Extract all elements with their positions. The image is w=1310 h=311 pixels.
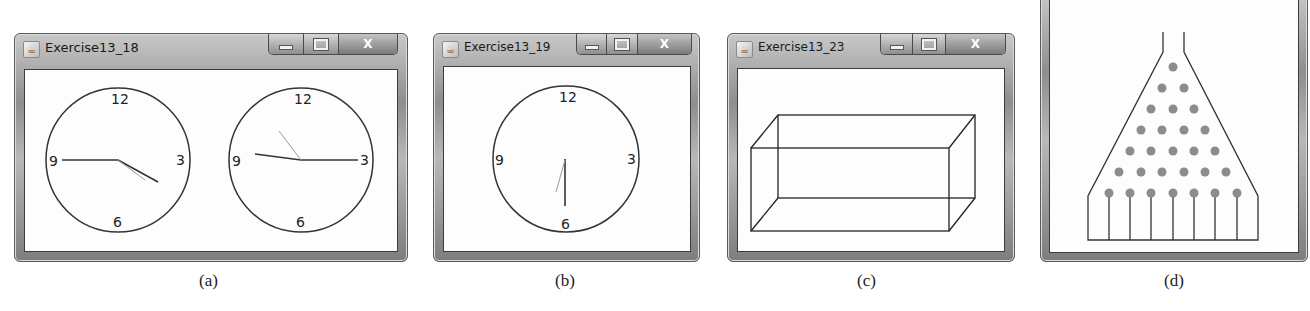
clock-label-12: 12 [111,91,129,107]
clock-label-3: 3 [176,152,185,168]
clock-label-6: 6 [296,214,305,230]
clock-face: 12 3 6 9 [493,86,639,232]
clock-face-left: 12 3 6 9 [46,88,190,232]
clock-face-right: 12 3 6 9 [229,88,373,232]
figure-caption-c: (c) [857,271,876,291]
clock-label-3: 3 [627,151,636,167]
slot-dividers [1109,193,1237,240]
figure-caption-a: (a) [199,271,218,291]
drawings-layer: 12 3 6 9 12 3 6 9 12 3 6 9 [0,0,1310,311]
figure-caption-b: (b) [555,271,575,291]
clock-label-12: 12 [559,89,577,105]
clock-label-9: 9 [49,153,58,169]
clock-label-6: 6 [561,216,570,232]
clock-label-6: 6 [113,214,122,230]
clock-label-9: 9 [495,152,504,168]
clock-label-3: 3 [360,152,369,168]
clock-hand [255,154,301,160]
clock-hand [556,160,565,192]
clock-hand [118,160,145,180]
clock-label-9: 9 [232,153,241,169]
wireframe-cuboid [751,115,975,231]
figure-caption-d: (d) [1164,271,1184,291]
clock-hand [118,160,158,182]
pegs [1105,63,1242,198]
clock-hand [279,131,301,160]
clock-label-12: 12 [294,91,312,107]
